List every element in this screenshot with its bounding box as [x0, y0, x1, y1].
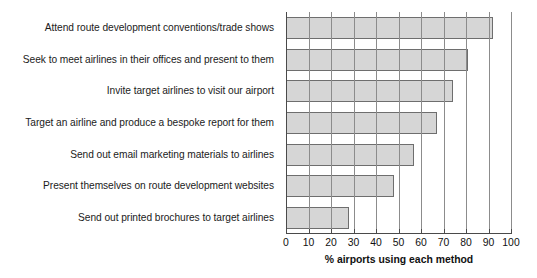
gridline [444, 12, 445, 234]
x-tick-label: 100 [502, 236, 519, 249]
gridline [309, 12, 310, 234]
bar [286, 17, 493, 39]
bar [286, 175, 394, 197]
x-tick-label: 70 [438, 236, 450, 249]
category-label: Send out printed brochures to target air… [0, 212, 274, 224]
x-tick-label: 20 [325, 236, 337, 249]
x-tick-label: 30 [348, 236, 360, 249]
x-tick-label: 40 [370, 236, 382, 249]
bar [286, 207, 349, 229]
axis-tick [309, 229, 310, 234]
x-axis-title: % airports using each method [286, 254, 512, 265]
x-axis-tick-labels: 0102030405060708090100 [286, 236, 512, 252]
gridline [511, 12, 512, 234]
x-tick-label: 90 [483, 236, 495, 249]
category-label: Attend route development conventions/tra… [0, 22, 274, 34]
axis-tick [421, 229, 422, 234]
gridline [421, 12, 422, 234]
axis-tick [376, 229, 377, 234]
category-label: Invite target airlines to visit our airp… [0, 85, 274, 97]
x-tick-label: 60 [415, 236, 427, 249]
gridline [331, 12, 332, 234]
bar-chart-figure: Attend route development conventions/tra… [0, 0, 537, 278]
x-tick-label: 80 [460, 236, 472, 249]
bar [286, 49, 468, 71]
category-label: Send out email marketing materials to ai… [0, 149, 274, 161]
axis-tick [331, 229, 332, 234]
bar [286, 80, 453, 102]
category-label: Target an airline and produce a bespoke … [0, 117, 274, 129]
gridline [466, 12, 467, 234]
x-tick-label: 50 [393, 236, 405, 249]
gridline [399, 12, 400, 234]
axis-tick [444, 229, 445, 234]
axis-tick [466, 229, 467, 234]
plot-inner [286, 12, 511, 234]
category-label: Seek to meet airlines in their offices a… [0, 54, 274, 66]
axis-tick [399, 229, 400, 234]
gridline [376, 12, 377, 234]
axis-tick [286, 229, 287, 234]
axis-tick [511, 229, 512, 234]
gridline [354, 12, 355, 234]
x-tick-label: 0 [283, 236, 289, 249]
category-label: Present themselves on route development … [0, 180, 274, 192]
bar [286, 144, 414, 166]
axis-tick [354, 229, 355, 234]
axis-tick [489, 229, 490, 234]
plot-area [286, 12, 511, 234]
gridline [489, 12, 490, 234]
x-tick-label: 10 [303, 236, 315, 249]
category-label-column: Attend route development conventions/tra… [0, 12, 282, 234]
gridline [286, 12, 287, 234]
